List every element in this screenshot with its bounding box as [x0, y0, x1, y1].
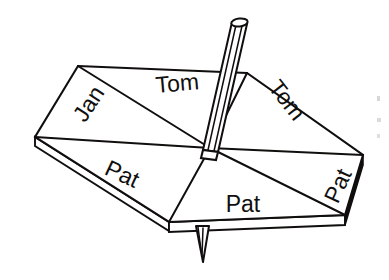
scan-artifacts: [377, 96, 381, 138]
sector-label-pat-bottom: Pat: [226, 191, 261, 217]
spindle-point-seam: [202, 228, 203, 256]
scan-fleck-upper: [377, 96, 380, 101]
spindle-hub: [201, 150, 218, 160]
spindle-point: [196, 226, 209, 262]
spinner-figure: Jan Tom Tom Pat Pat Pat: [0, 0, 389, 280]
spinner-illustration: Jan Tom Tom Pat Pat Pat: [0, 0, 389, 280]
sector-label-tom-top: Tom: [155, 68, 201, 98]
spindle-hub-collar: [201, 150, 218, 160]
scan-fleck-lower: [377, 134, 380, 138]
scan-fleck-middle: [377, 118, 381, 122]
